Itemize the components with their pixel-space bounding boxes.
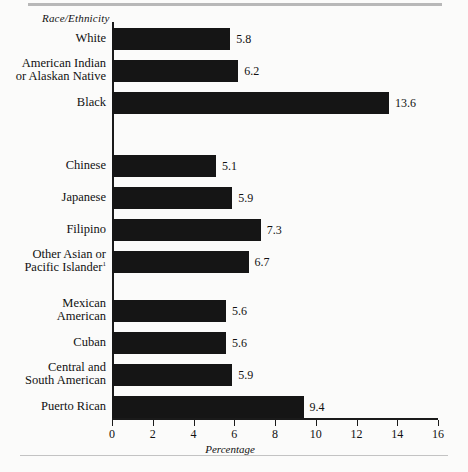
- x-tick: [316, 420, 317, 426]
- x-tick-label: 0: [109, 427, 115, 442]
- category-label: White: [0, 32, 106, 45]
- x-tick-label: 8: [272, 427, 278, 442]
- x-tick-label: 2: [150, 427, 156, 442]
- category-label: Black: [0, 96, 106, 109]
- category-label: Other Asian or Pacific Islander1: [0, 248, 106, 274]
- bar: [112, 28, 230, 50]
- bar-value-label: 7.3: [267, 219, 282, 241]
- bar: [112, 300, 226, 322]
- category-label: American Indian or Alaskan Native: [0, 57, 106, 83]
- x-axis-title: Percentage: [205, 443, 255, 455]
- bar: [112, 155, 216, 177]
- x-tick-label: 10: [310, 427, 322, 442]
- bar-value-label: 5.1: [222, 155, 237, 177]
- bar: [112, 60, 238, 82]
- x-tick-label: 16: [432, 427, 444, 442]
- bar: [112, 187, 232, 209]
- bar-value-label: 6.7: [255, 251, 270, 273]
- bar: [112, 332, 226, 354]
- x-tick-label: 14: [391, 427, 403, 442]
- x-tick: [397, 420, 398, 426]
- x-tick: [438, 420, 439, 426]
- bar: [112, 364, 232, 386]
- footnote-marker: 1: [103, 260, 107, 268]
- bar-value-label: 9.4: [310, 396, 325, 418]
- y-axis-title: Race/Ethnicity: [42, 12, 110, 24]
- bar: [112, 219, 261, 241]
- category-label: Mexican American: [0, 297, 106, 323]
- x-tick: [153, 420, 154, 426]
- category-label: Japanese: [0, 191, 106, 204]
- category-label: Cuban: [0, 336, 106, 349]
- x-tick: [194, 420, 195, 426]
- bar-value-label: 6.2: [244, 60, 259, 82]
- bar: [112, 396, 304, 418]
- category-label: Central and South American: [0, 361, 106, 387]
- bar: [112, 92, 389, 114]
- x-tick: [112, 420, 113, 426]
- category-label: Chinese: [0, 159, 106, 172]
- x-tick: [275, 420, 276, 426]
- bar-value-label: 5.9: [238, 187, 253, 209]
- x-tick: [234, 420, 235, 426]
- bar-chart-figure: Race/Ethnicity 0246810121416 5.86.213.65…: [0, 0, 468, 472]
- top-rule: [28, 3, 442, 6]
- bar-value-label: 5.8: [236, 28, 251, 50]
- bar-value-label: 5.9: [238, 364, 253, 386]
- bottom-rule: [20, 455, 448, 456]
- bar-value-label: 13.6: [395, 92, 416, 114]
- x-tick-label: 12: [351, 427, 363, 442]
- x-tick-label: 4: [191, 427, 197, 442]
- bar: [112, 251, 249, 273]
- bar-value-label: 5.6: [232, 300, 247, 322]
- x-tick: [357, 420, 358, 426]
- category-label: Puerto Rican: [0, 400, 106, 413]
- bar-value-label: 5.6: [232, 332, 247, 354]
- x-tick-label: 6: [231, 427, 237, 442]
- category-label: Filipino: [0, 223, 106, 236]
